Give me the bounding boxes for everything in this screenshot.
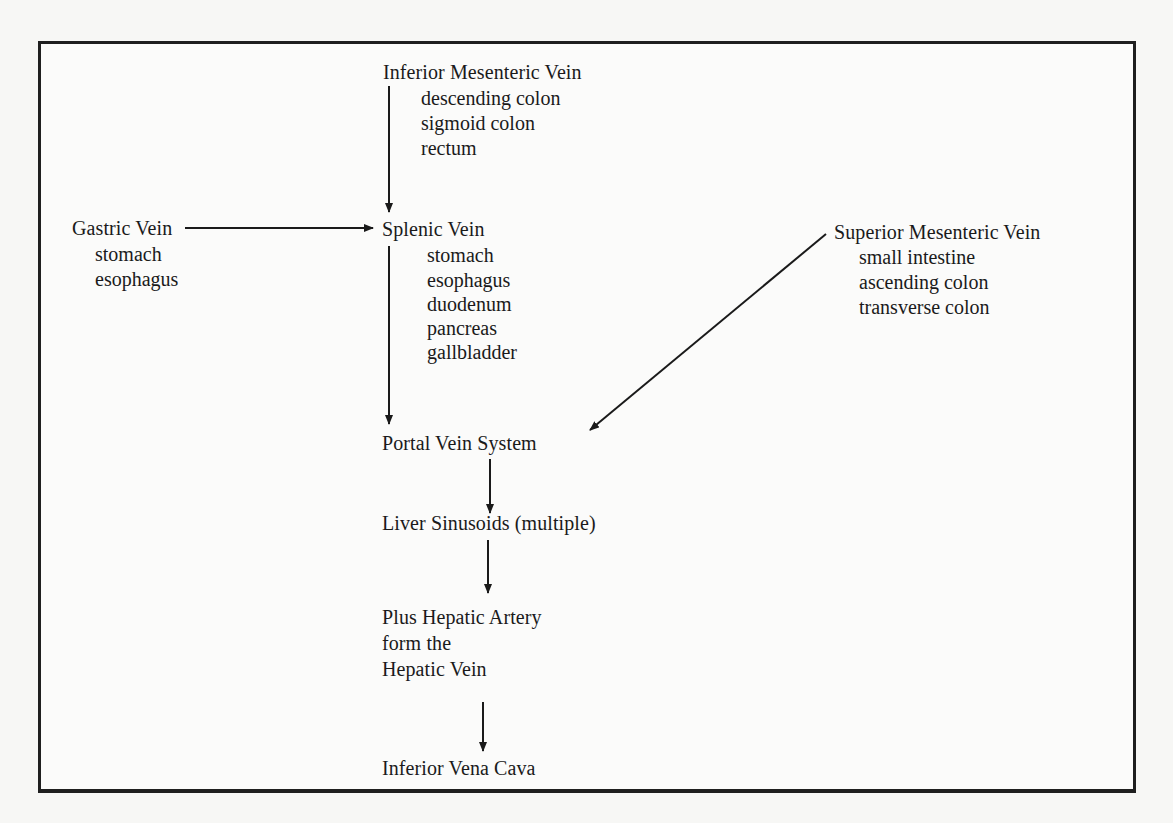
node-smv-item: ascending colon (859, 270, 988, 295)
node-imv-item: sigmoid colon (421, 111, 535, 136)
node-splenic-item: stomach (427, 243, 494, 268)
diagram-frame (38, 41, 1136, 793)
node-portal-vein-system: Portal Vein System (382, 431, 537, 456)
node-inferior-vena-cava: Inferior Vena Cava (382, 756, 536, 781)
node-hepatic-vein: Hepatic Vein (382, 657, 487, 682)
node-liver-sinusoids: Liver Sinusoids (multiple) (382, 511, 596, 536)
node-smv-item: transverse colon (859, 295, 990, 320)
node-gastric-vein: Gastric Vein (72, 216, 172, 241)
node-inferior-mesenteric-vein: Inferior Mesenteric Vein (383, 60, 582, 85)
node-gastric-item: esophagus (95, 267, 178, 292)
node-imv-item: rectum (421, 136, 477, 161)
node-imv-item: descending colon (421, 86, 560, 111)
node-hepatic-line: form the (382, 631, 451, 656)
node-gastric-item: stomach (95, 242, 162, 267)
node-smv-item: small intestine (859, 245, 975, 270)
node-superior-mesenteric-vein: Superior Mesenteric Vein (834, 220, 1040, 245)
node-splenic-item: duodenum (427, 292, 511, 317)
node-splenic-item: esophagus (427, 268, 510, 293)
node-splenic-item: pancreas (427, 316, 497, 341)
node-splenic-vein: Splenic Vein (382, 217, 485, 242)
node-splenic-item: gallbladder (427, 340, 517, 365)
node-hepatic-line: Plus Hepatic Artery (382, 605, 542, 630)
